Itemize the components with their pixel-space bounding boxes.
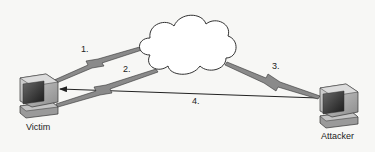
edge-1-label: 1. [81, 45, 89, 54]
attack-diagram: 1. 2. 3. 4. Victim Attacker [0, 0, 375, 152]
victim-label: Victim [26, 123, 50, 132]
internet-cloud-icon [140, 15, 237, 74]
attacker-label: Attacker [321, 132, 354, 141]
edge-3-label: 3. [272, 62, 280, 71]
attacker-computer-icon [320, 84, 358, 128]
victim-computer-icon [20, 74, 58, 118]
edge-4-label: 4. [192, 97, 200, 106]
edge-2-label: 2. [123, 65, 131, 74]
